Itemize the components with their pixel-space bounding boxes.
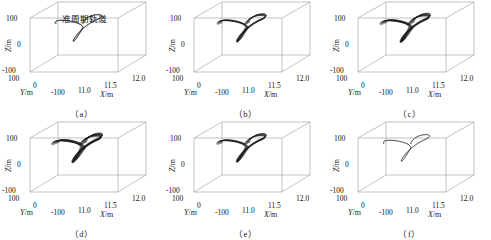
trajectory-plot-d	[0, 120, 163, 220]
ztick-b-0: 100	[170, 14, 181, 23]
trajectory-plot-b	[164, 0, 327, 100]
ytick-d-2: -100	[51, 208, 65, 217]
xtick-f-2: 12.0	[460, 194, 473, 203]
figure-six-panel-trajectories: 1000-1001000-10011.011.512.0Z/mY/mX/m准周期…	[0, 0, 491, 240]
plot-area-f: 1000-1001000-10011.011.512.0Z/mY/mX/m	[328, 120, 491, 220]
x-axis-label-e: X/m	[264, 210, 277, 219]
y-axis-label-e: Y/m	[184, 208, 197, 217]
ytick-f-2: -100	[379, 208, 393, 217]
subplot-caption-b: （b）	[164, 107, 327, 119]
z-axis-label-f: Z/m	[332, 159, 341, 172]
xtick-f-1: 11.5	[432, 201, 445, 210]
ytick-e-1: 0	[197, 201, 201, 210]
ytick-c-1: 0	[361, 81, 365, 90]
ytick-a-0: 100	[8, 74, 19, 83]
xtick-b-2: 12.0	[296, 74, 309, 83]
z-axis-label-e: Z/m	[168, 159, 177, 172]
trajectory-plot-c	[328, 0, 491, 100]
x-axis-label-d: X/m	[100, 210, 113, 219]
y-axis-label-d: Y/m	[20, 208, 33, 217]
xtick-e-0: 11.0	[242, 206, 255, 215]
subplot-c: 1000-1001000-10011.011.512.0Z/mY/mX/m（c）	[328, 0, 491, 120]
xtick-e-1: 11.5	[268, 201, 281, 210]
subplot-f: 1000-1001000-10011.011.512.0Z/mY/mX/m（f）	[328, 120, 491, 240]
xtick-c-1: 11.5	[432, 81, 445, 90]
x-axis-label-f: X/m	[428, 210, 441, 219]
ztick-a-0: 100	[6, 14, 17, 23]
ztick-a-1: 0	[17, 40, 21, 49]
axes-box-d	[30, 122, 146, 192]
x-axis-label-a: X/m	[100, 90, 113, 99]
subplot-caption-c: （c）	[328, 107, 491, 119]
y-axis-label-c: Y/m	[348, 88, 361, 97]
xtick-a-2: 12.0	[132, 74, 145, 83]
xtick-a-1: 11.5	[104, 81, 117, 90]
ztick-c-1: 0	[345, 40, 349, 49]
trajectory-curves-d	[52, 133, 103, 163]
xtick-d-2: 12.0	[132, 194, 145, 203]
trajectory-curves-f	[383, 135, 429, 162]
subplot-caption-a: （a）	[0, 107, 163, 119]
subplot-a: 1000-1001000-10011.011.512.0Z/mY/mX/m准周期…	[0, 0, 163, 120]
ytick-e-0: 100	[172, 194, 183, 203]
subplot-caption-e: （e）	[164, 227, 327, 239]
plot-area-a: 1000-1001000-10011.011.512.0Z/mY/mX/m准周期…	[0, 0, 163, 100]
ztick-d-0: 100	[6, 134, 17, 143]
axes-box-c	[358, 2, 474, 72]
ztick-f-1: 0	[345, 160, 349, 169]
ytick-f-0: 100	[336, 194, 347, 203]
ztick-d-1: 0	[17, 160, 21, 169]
ztick-b-1: 0	[181, 40, 185, 49]
y-axis-label-a: Y/m	[20, 88, 33, 97]
ztick-e-1: 0	[181, 160, 185, 169]
ytick-a-2: -100	[51, 88, 65, 97]
xtick-f-0: 11.0	[406, 206, 419, 215]
ytick-b-2: -100	[215, 88, 229, 97]
xtick-d-1: 11.5	[104, 201, 117, 210]
z-axis-label-d: Z/m	[4, 159, 13, 172]
ytick-c-2: -100	[379, 88, 393, 97]
z-axis-label-c: Z/m	[332, 39, 341, 52]
y-axis-label-f: Y/m	[348, 208, 361, 217]
axes-box-e	[194, 122, 310, 192]
subplot-caption-d: （d）	[0, 227, 163, 239]
ytick-b-1: 0	[197, 81, 201, 90]
trajectory-curves-c	[380, 13, 430, 43]
xtick-b-1: 11.5	[268, 81, 281, 90]
ytick-d-0: 100	[8, 194, 19, 203]
x-axis-label-b: X/m	[264, 90, 277, 99]
z-axis-label-b: Z/m	[168, 39, 177, 52]
plot-area-b: 1000-1001000-10011.011.512.0Z/mY/mX/m	[164, 0, 327, 100]
axes-box-b	[194, 2, 310, 72]
annotation-quasi-periodic-orbit: 准周期轨道	[62, 12, 107, 24]
xtick-b-0: 11.0	[242, 86, 255, 95]
x-axis-label-c: X/m	[428, 90, 441, 99]
ytick-d-1: 0	[33, 201, 37, 210]
ztick-f-0: 100	[334, 134, 345, 143]
ytick-c-0: 100	[336, 74, 347, 83]
xtick-a-0: 11.0	[78, 86, 91, 95]
ztick-e-0: 100	[170, 134, 181, 143]
trajectory-plot-f	[328, 120, 491, 220]
axes-box-f	[358, 122, 474, 192]
ytick-b-0: 100	[172, 74, 183, 83]
xtick-c-2: 12.0	[460, 74, 473, 83]
subplot-d: 1000-1001000-10011.011.512.0Z/mY/mX/m（d）	[0, 120, 163, 240]
xtick-d-0: 11.0	[78, 206, 91, 215]
ytick-a-1: 0	[33, 81, 37, 90]
xtick-e-2: 12.0	[296, 194, 309, 203]
ztick-c-0: 100	[334, 14, 345, 23]
ytick-f-1: 0	[361, 201, 365, 210]
subplot-e: 1000-1001000-10011.011.512.0Z/mY/mX/m（e）	[164, 120, 327, 240]
y-axis-label-b: Y/m	[184, 88, 197, 97]
subplot-b: 1000-1001000-10011.011.512.0Z/mY/mX/m（b）	[164, 0, 327, 120]
xtick-c-0: 11.0	[406, 86, 419, 95]
plot-area-c: 1000-1001000-10011.011.512.0Z/mY/mX/m	[328, 0, 491, 100]
z-axis-label-a: Z/m	[4, 39, 13, 52]
plot-area-d: 1000-1001000-10011.011.512.0Z/mY/mX/m	[0, 120, 163, 220]
subplot-caption-f: （f）	[328, 227, 491, 239]
trajectory-plot-e	[164, 120, 327, 220]
ytick-e-2: -100	[215, 208, 229, 217]
plot-area-e: 1000-1001000-10011.011.512.0Z/mY/mX/m	[164, 120, 327, 220]
